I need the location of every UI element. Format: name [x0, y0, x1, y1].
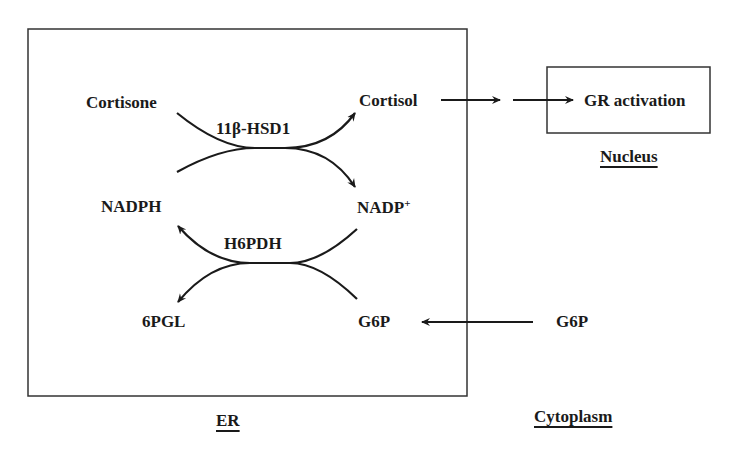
nadp-base-text: NADP: [357, 198, 404, 217]
nadph-label: NADPH: [101, 198, 161, 215]
cytoplasm-label: Cytoplasm: [534, 408, 612, 425]
g6p-to-6pgl-arrow: [178, 263, 357, 302]
nadph-to-nadp-arrow: [177, 148, 355, 187]
hsd1-enzyme-text: 11β-HSD1: [216, 119, 290, 138]
nadp-plus-label: NADP+: [357, 198, 411, 216]
g6p-er-label: G6P: [358, 313, 390, 330]
er-label: ER: [216, 412, 240, 429]
hsd1-enzyme-label: 11β-HSD1: [216, 120, 290, 137]
nucleus-label: Nucleus: [600, 148, 658, 165]
gr-activation-label: GR activation: [584, 92, 686, 109]
cortisol-label: Cortisol: [359, 92, 418, 109]
g6p-cytoplasm-label: G6P: [556, 313, 588, 330]
pathway-diagram-canvas: [0, 0, 737, 457]
cortisone-label: Cortisone: [86, 94, 157, 111]
nadp-superscript: +: [404, 197, 410, 209]
h6pdh-enzyme-label: H6PDH: [224, 235, 282, 252]
6pgl-label: 6PGL: [142, 313, 185, 330]
